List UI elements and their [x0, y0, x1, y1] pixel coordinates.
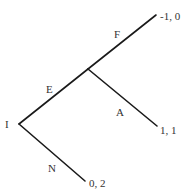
- payoff-N: 0, 2: [89, 177, 106, 189]
- root-node-label: I: [5, 118, 9, 130]
- payoff-A: 1, 1: [160, 124, 177, 136]
- edge-E: [19, 69, 88, 124]
- edge-label-E: E: [46, 83, 53, 95]
- edge-label-F: F: [114, 28, 120, 40]
- edge-label-A: A: [116, 106, 124, 118]
- payoff-F: -1, 0: [160, 10, 181, 22]
- edge-label-N: N: [48, 162, 56, 174]
- edge-F: [88, 15, 156, 69]
- game-tree-diagram: I E N F A -1, 0 1, 1 0, 2: [0, 0, 183, 192]
